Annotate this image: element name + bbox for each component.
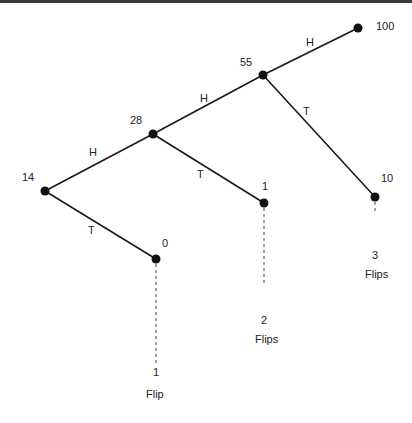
tree-edge <box>45 134 153 191</box>
tree-edge <box>263 75 375 197</box>
edge-label-t: T <box>197 168 204 180</box>
tree-edge <box>153 134 264 203</box>
tree-node-dot <box>354 24 363 33</box>
tree-node-dot <box>260 199 269 208</box>
tree-edge <box>45 191 156 259</box>
edge-label-h: H <box>89 146 97 158</box>
node-label-55: 55 <box>240 56 252 68</box>
node-label-14: 14 <box>22 171 34 183</box>
tree-node-dot <box>41 187 50 196</box>
edge-label-h: H <box>200 92 208 104</box>
node-label-0: 0 <box>162 237 168 249</box>
node-label-28: 28 <box>130 114 142 126</box>
tree-node-dot <box>152 255 161 264</box>
tree-edge <box>153 75 263 134</box>
node-label-100: 100 <box>376 20 394 32</box>
edge-label-h: H <box>306 36 314 48</box>
flip-unit-2: Flips <box>255 333 278 345</box>
flip-count-1: 1 <box>153 366 159 378</box>
flip-count-2: 2 <box>261 314 267 326</box>
tree-node-dot <box>149 130 158 139</box>
node-label-10: 10 <box>381 172 393 184</box>
edge-label-t: T <box>303 105 310 117</box>
flip-unit-1: Flip <box>146 388 164 400</box>
edge-label-t: T <box>88 224 95 236</box>
flip-unit-3: Flips <box>365 268 388 280</box>
flip-count-3: 3 <box>372 249 378 261</box>
node-label-1: 1 <box>262 180 268 192</box>
tree-node-dot <box>259 71 268 80</box>
tree-node-dot <box>371 193 380 202</box>
tree-diagram <box>0 0 412 423</box>
